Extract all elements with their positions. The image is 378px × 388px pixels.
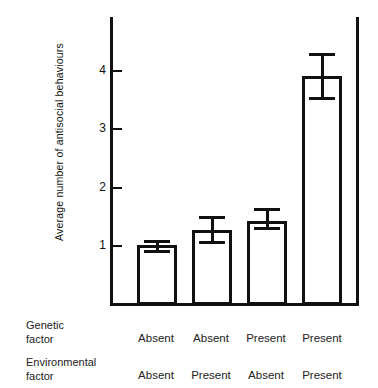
bars-layer xyxy=(110,17,358,305)
error-bar-cap-upper xyxy=(254,208,280,211)
y-tick-label-4: 4 xyxy=(84,64,106,76)
environmental-level-3: Absent xyxy=(235,368,297,382)
environmental-factor-row: Environmental factor Absent Present Abse… xyxy=(0,355,378,388)
error-bar-3 xyxy=(247,208,287,230)
bar-4 xyxy=(302,76,342,305)
environmental-level-2: Present xyxy=(180,368,242,382)
bar-1 xyxy=(137,245,177,306)
figure-bar-chart: Average number of antisocial behaviours … xyxy=(0,0,378,388)
genetic-level-3: Present xyxy=(235,331,297,345)
genetic-factor-label-line1: Genetic xyxy=(26,319,64,331)
y-tick-label-1: 1 xyxy=(84,239,106,251)
environmental-level-4: Present xyxy=(291,368,353,382)
y-tick-label-3: 3 xyxy=(84,122,106,134)
error-bar-stem xyxy=(321,53,324,100)
error-bar-2 xyxy=(192,216,232,245)
environmental-factor-label-line1: Environmental xyxy=(26,356,96,368)
error-bar-cap-lower xyxy=(254,227,280,230)
y-axis-title: Average number of antisocial behaviours xyxy=(53,32,65,252)
genetic-factor-label-line2: factor xyxy=(26,333,54,345)
error-bar-cap-lower xyxy=(309,97,335,100)
genetic-factor-row: Genetic factor Absent Absent Present Pre… xyxy=(0,318,378,352)
y-tick-label-2: 2 xyxy=(84,181,106,193)
error-bar-4 xyxy=(302,53,342,100)
error-bar-cap-upper xyxy=(144,240,170,243)
genetic-level-2: Absent xyxy=(180,331,242,345)
error-bar-stem xyxy=(211,216,214,245)
bar-3 xyxy=(247,221,287,305)
environmental-factor-label-line2: factor xyxy=(26,370,54,382)
error-bar-cap-lower xyxy=(199,241,225,244)
error-bar-cap-upper xyxy=(309,53,335,56)
error-bar-1 xyxy=(137,240,177,253)
error-bar-cap-lower xyxy=(144,250,170,253)
error-bar-cap-upper xyxy=(199,216,225,219)
genetic-level-1: Absent xyxy=(125,331,187,345)
environmental-level-1: Absent xyxy=(125,368,187,382)
genetic-level-4: Present xyxy=(291,331,353,345)
